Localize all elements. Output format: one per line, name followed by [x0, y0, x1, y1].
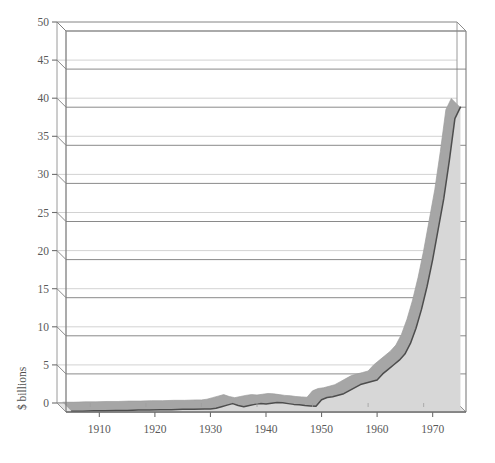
- x-tick-label-1920: 1920: [143, 423, 166, 435]
- y-tick-label-50: 50: [38, 16, 50, 28]
- x-tick-label-1950: 1950: [310, 423, 333, 435]
- x-tick-label-1940: 1940: [255, 423, 278, 435]
- y-tick-label-35: 35: [38, 130, 50, 142]
- y-tick-label-20: 20: [38, 245, 50, 257]
- x-tick-label-1910: 1910: [88, 423, 111, 435]
- y-tick-label-30: 30: [38, 168, 50, 180]
- y-tick-label-45: 45: [38, 54, 50, 66]
- y-tick-label-5: 5: [43, 359, 49, 371]
- chart-figure: 05101520253035404550 1910192019301940195…: [0, 0, 495, 463]
- y-axis-title: $ billions: [16, 366, 28, 410]
- x-tick-label-1960: 1960: [366, 423, 389, 435]
- x-tick-label-1970: 1970: [421, 423, 444, 435]
- y-tick-label-25: 25: [38, 207, 50, 219]
- x-tick-label-1930: 1930: [199, 423, 222, 435]
- area-chart: 05101520253035404550 1910192019301940195…: [0, 0, 495, 463]
- y-tick-label-40: 40: [38, 92, 50, 104]
- y-tick-label-0: 0: [43, 397, 49, 409]
- y-tick-label-10: 10: [38, 321, 50, 333]
- y-tick-label-15: 15: [38, 283, 50, 295]
